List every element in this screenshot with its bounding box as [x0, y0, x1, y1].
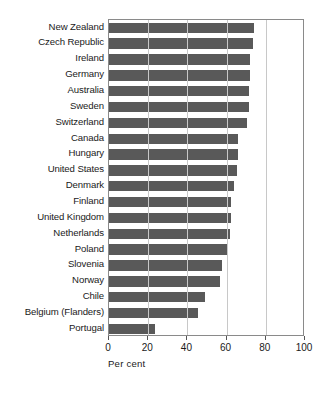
category-label: Germany [0, 69, 104, 79]
gridline [266, 20, 267, 335]
bar-row [109, 131, 303, 147]
category-label: Chile [0, 291, 104, 301]
x-tick-label: 80 [250, 342, 280, 354]
x-tick-mark [108, 336, 109, 340]
bar [109, 70, 250, 80]
bar [109, 229, 230, 239]
bar-row [109, 194, 303, 210]
bar [109, 54, 250, 64]
x-tick-label: 0 [93, 342, 123, 354]
bar [109, 23, 254, 33]
category-label: Belgium (Flanders) [0, 307, 104, 317]
bar-row [109, 83, 303, 99]
category-label: Canada [0, 133, 104, 143]
bar [109, 213, 231, 223]
category-label: United Kingdom [0, 212, 104, 222]
bar [109, 308, 198, 318]
bar-row [109, 20, 303, 36]
x-tick-mark [265, 336, 266, 340]
plot-area [108, 19, 304, 336]
bar [109, 292, 205, 302]
x-tick-label: 60 [211, 342, 241, 354]
category-label: Switzerland [0, 117, 104, 127]
category-label: Denmark [0, 180, 104, 190]
bar [109, 181, 234, 191]
bar-row [109, 163, 303, 179]
category-label: New Zealand [0, 22, 104, 32]
x-axis-title: Per cent [108, 358, 145, 370]
bar-rows [109, 20, 303, 335]
bar-row [109, 115, 303, 131]
bar-row [109, 274, 303, 290]
bar [109, 276, 220, 286]
bar-row [109, 226, 303, 242]
bar-row [109, 242, 303, 258]
category-axis-labels: New ZealandCzech RepublicIrelandGermanyA… [0, 19, 104, 336]
bar-row [109, 99, 303, 115]
bar-row [109, 321, 303, 337]
gridline [187, 20, 188, 335]
category-label: Australia [0, 85, 104, 95]
bar-row [109, 289, 303, 305]
category-label: Poland [0, 244, 104, 254]
x-tick-mark [226, 336, 227, 340]
bar [109, 149, 238, 159]
bar-row [109, 258, 303, 274]
category-label: Portugal [0, 323, 104, 333]
x-tick-mark [186, 336, 187, 340]
category-label: Netherlands [0, 228, 104, 238]
x-tick-label: 40 [171, 342, 201, 354]
category-label: Sweden [0, 101, 104, 111]
category-label: Ireland [0, 53, 104, 63]
bar [109, 197, 231, 207]
x-tick-label: 20 [132, 342, 162, 354]
gridline [148, 20, 149, 335]
bar-row [109, 210, 303, 226]
x-tick-mark [304, 336, 305, 340]
category-label: Czech Republic [0, 37, 104, 47]
category-label: Hungary [0, 148, 104, 158]
bar [109, 260, 222, 270]
bar-row [109, 179, 303, 195]
bar-row [109, 305, 303, 321]
bar [109, 102, 249, 112]
bar-row [109, 68, 303, 84]
bar-row [109, 147, 303, 163]
bar [109, 165, 237, 175]
category-label: Slovenia [0, 259, 104, 269]
bar [109, 244, 228, 254]
bar-row [109, 36, 303, 52]
bar [109, 86, 249, 96]
category-label: Finland [0, 196, 104, 206]
bar-row [109, 52, 303, 68]
bar [109, 134, 238, 144]
bar [109, 38, 253, 48]
x-tick-label: 100 [289, 342, 319, 354]
x-tick-mark [147, 336, 148, 340]
category-label: United States [0, 164, 104, 174]
gridline [227, 20, 228, 335]
category-label: Norway [0, 275, 104, 285]
bar-chart: New ZealandCzech RepublicIrelandGermanyA… [0, 0, 320, 397]
